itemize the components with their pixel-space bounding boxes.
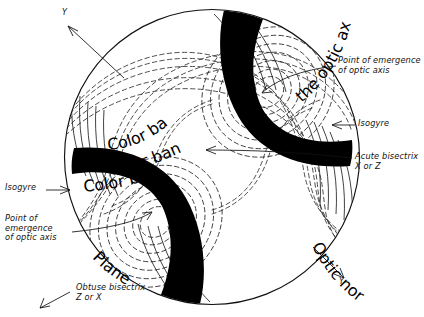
interference-figure-page: the optic axis Optic normal Plane of Col… bbox=[0, 0, 424, 317]
label-isogyre-left: Isogyre bbox=[5, 183, 36, 193]
label-point-of-emergence-left: Point of emergence of optic axis bbox=[5, 214, 57, 243]
label-acute-bisectrix: Acute bisectrix X or Z bbox=[355, 152, 418, 171]
leader-obtuse-bisectrix bbox=[40, 292, 70, 308]
label-axis-y-top: Y bbox=[62, 8, 67, 17]
label-point-of-emergence-right: Point of emergence of optic axis bbox=[338, 56, 421, 75]
label-obtuse-bisectrix: Obtuse bisectrix Z or X bbox=[76, 283, 145, 302]
label-optic-normal-axis-y: Y bbox=[339, 277, 344, 286]
label-isogyre-right: Isogyre bbox=[358, 119, 389, 129]
